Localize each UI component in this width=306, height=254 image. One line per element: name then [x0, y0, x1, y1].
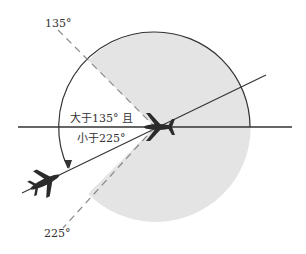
- label-225-degrees: 225°: [44, 228, 71, 239]
- airplane-icon-lower-left: [24, 162, 66, 203]
- label-range-greater-than: 大于135° 且: [70, 113, 133, 124]
- heading-diagram: [0, 0, 306, 254]
- label-range-less-than: 小于225°: [77, 133, 126, 144]
- label-135-degrees: 135°: [45, 18, 72, 29]
